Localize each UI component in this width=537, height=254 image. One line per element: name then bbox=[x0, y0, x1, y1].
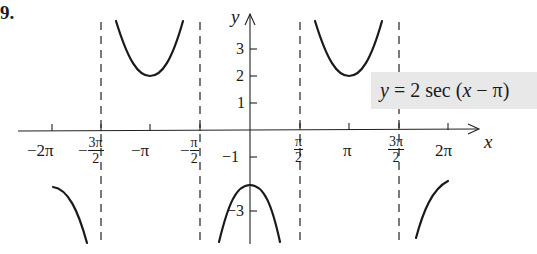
equation-lhs: y bbox=[380, 79, 389, 101]
y-tick-neg3: −3 bbox=[227, 202, 244, 220]
x-tick-neg-pi: −π bbox=[131, 142, 149, 159]
x-axis-label: x bbox=[484, 131, 492, 153]
branch-upper-left bbox=[116, 21, 183, 76]
x-tick-2pi: 2π bbox=[435, 142, 452, 159]
x-tick-pi-2: π 2 bbox=[294, 135, 303, 165]
equation-rest: − π) bbox=[471, 79, 509, 101]
equation-eq: = 2 sec ( bbox=[389, 79, 462, 101]
x-tick-pi: π bbox=[343, 142, 352, 159]
equation-var: x bbox=[462, 79, 471, 101]
x-tick-neg-2pi: −2π bbox=[27, 142, 54, 159]
y-tick-neg1: −1 bbox=[222, 148, 239, 166]
x-axis bbox=[18, 123, 479, 134]
x-tick-neg-pi-2: − π 2 bbox=[180, 136, 199, 166]
branch-lower-left bbox=[53, 187, 87, 243]
y-tick-1: 1 bbox=[237, 94, 245, 112]
branch-lower-right bbox=[416, 181, 448, 238]
branch-upper-right bbox=[315, 21, 382, 76]
y-tick-3: 3 bbox=[236, 40, 244, 58]
equation-label: y = 2 sec (x − π) bbox=[380, 79, 509, 102]
y-tick-2: 2 bbox=[236, 67, 244, 85]
y-axis-label: y bbox=[231, 6, 239, 28]
y-axis bbox=[245, 14, 257, 244]
x-tick-3pi-2: 3π 2 bbox=[388, 135, 404, 165]
graph-canvas bbox=[0, 0, 537, 254]
x-tick-neg-3pi-2: − 3π 2 bbox=[78, 136, 104, 166]
